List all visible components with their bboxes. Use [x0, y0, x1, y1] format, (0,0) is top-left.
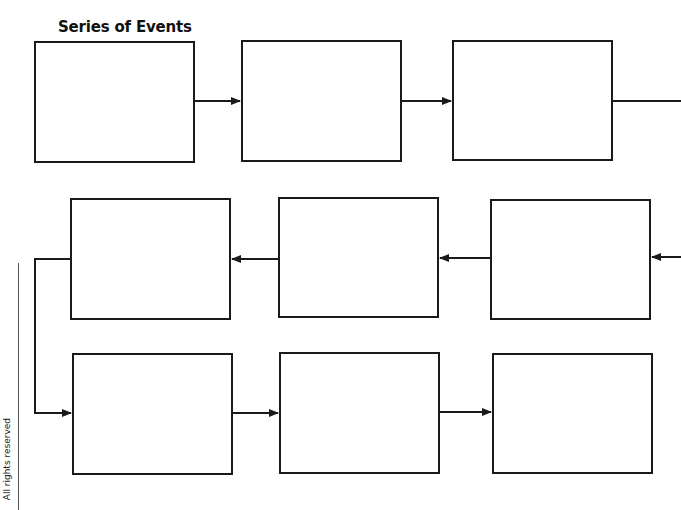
margin-rule	[18, 263, 19, 510]
arrow-6-to-7	[35, 259, 71, 413]
connector-arrows	[0, 0, 681, 510]
copyright-notice: All rights reserved	[2, 418, 14, 510]
